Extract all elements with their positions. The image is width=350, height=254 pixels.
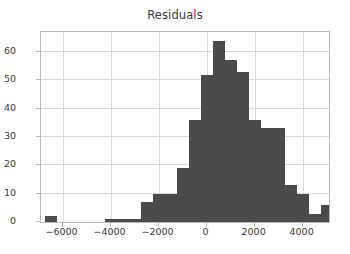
histogram-bar: [189, 120, 201, 222]
y-axis-tick-label: 20: [0, 158, 16, 169]
histogram-bar: [309, 214, 321, 223]
histogram-bar: [249, 120, 261, 222]
x-axis-tick-label: 4000: [272, 226, 332, 237]
histogram-bar: [177, 168, 189, 222]
y-axis-tick-label: 50: [0, 73, 16, 84]
histogram-bar: [213, 41, 225, 222]
histogram-bar: [261, 128, 273, 222]
y-axis-tick-label: 40: [0, 102, 16, 113]
histogram-bar: [45, 216, 57, 222]
histogram-bar: [165, 194, 177, 222]
chart-title: Residuals: [0, 8, 350, 22]
histogram-bar: [129, 219, 141, 222]
histogram-bar: [273, 128, 285, 222]
x-axis-tick-mark: [302, 223, 303, 227]
histogram-bar: [201, 75, 213, 222]
y-axis-tick-label: 60: [0, 45, 16, 56]
histogram-bar: [321, 205, 330, 222]
y-axis-tick-label: 0: [0, 215, 16, 226]
histogram-bar: [153, 194, 165, 222]
histogram-bar: [285, 185, 297, 222]
x-axis-tick-mark: [62, 223, 63, 227]
histogram-bars: [41, 32, 329, 222]
x-axis-tick-mark: [110, 223, 111, 227]
histogram-bar: [237, 72, 249, 222]
histogram-bar: [105, 219, 117, 222]
plot-area: [40, 31, 330, 223]
y-axis-tick-label: 10: [0, 187, 16, 198]
histogram-bar: [141, 202, 153, 222]
x-axis-tick-mark: [158, 223, 159, 227]
histogram-bar: [225, 60, 237, 222]
x-axis-tick-mark: [206, 223, 207, 227]
x-axis-tick-mark: [254, 223, 255, 227]
histogram-bar: [297, 194, 309, 222]
histogram-bar: [117, 219, 129, 222]
histogram-figure: Residuals 0102030405060 −6000−4000−20000…: [0, 0, 350, 254]
y-axis-tick-label: 30: [0, 130, 16, 141]
